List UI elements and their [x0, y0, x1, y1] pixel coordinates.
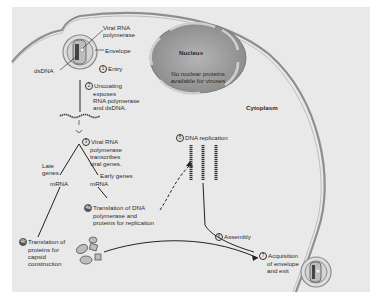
step-7-acquisition-exit: 7Acquisition of envelope and exit [259, 252, 299, 274]
step-6-assembly: 6Assembly [215, 233, 251, 241]
exiting-virion [301, 257, 331, 287]
step-number: 3 [82, 138, 90, 146]
dna-replication-strands [191, 145, 216, 180]
dsdna-strand [60, 115, 100, 118]
step-1-entry: 1Entry [99, 65, 122, 73]
step-number: 4b [19, 238, 27, 246]
step-3-transcription: 3Viral RNA polymerase transcribes viral … [82, 138, 122, 167]
label-nucleus: Nucleus [179, 49, 203, 56]
capsid-pieces [75, 237, 101, 264]
step-4a-translation-dna-polymerase: 4aTranslation of DNA polymerase and prot… [84, 204, 154, 226]
step-2-uncoating: 2Uncoating exposes RNA polymerase and ds… [85, 82, 139, 111]
label-nucleus-note: No nuclear proteins available for viruse… [162, 70, 234, 84]
step-number: 5 [176, 134, 184, 142]
step-number: 1 [99, 65, 107, 73]
step-number: 6 [215, 233, 223, 241]
step-5-dna-replication: 5DNA replication [176, 134, 228, 142]
label-mrna-early: mRNA [90, 180, 108, 187]
label-cytoplasm: Cytoplasm [246, 104, 278, 111]
rna-polymerase-icon [76, 130, 82, 133]
label-envelope: Envelope [105, 47, 131, 54]
step-4b-translation-capsid-proteins: 4bTranslation of proteins for capsid con… [19, 238, 65, 267]
label-dsdna: dsDNA [34, 67, 54, 74]
label-mrna-late: mRNA [50, 180, 68, 187]
dashed-arrow [160, 165, 190, 210]
label-late-genes: Late genes [42, 162, 59, 176]
label-early-genes: Early genes [100, 172, 133, 179]
step-number: 7 [259, 252, 267, 260]
step-number: 4a [84, 204, 92, 212]
step-number: 2 [85, 82, 93, 90]
entering-virion [60, 30, 104, 70]
label-viral-rna-polymerase: Viral RNA polymerase [103, 24, 135, 38]
